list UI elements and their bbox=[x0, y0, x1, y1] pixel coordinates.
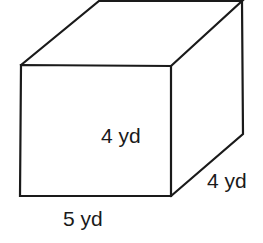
right-face-edges bbox=[171, 1, 243, 196]
height-label: 4 yd bbox=[101, 124, 141, 147]
top-face-edges bbox=[21, 1, 242, 66]
prism-diagram: 4 yd 4 yd 5 yd bbox=[0, 0, 263, 243]
front-face bbox=[20, 65, 171, 196]
depth-label: 4 yd bbox=[207, 169, 247, 192]
length-label: 5 yd bbox=[63, 207, 103, 230]
